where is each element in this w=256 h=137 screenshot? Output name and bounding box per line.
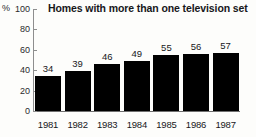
x-axis-label: 1981	[32, 119, 64, 130]
y-axis-tick-label: 20	[4, 87, 30, 96]
x-axis-label: 1983	[91, 119, 123, 130]
x-axis-label: 1984	[121, 119, 153, 130]
y-axis-tick-label: 100	[4, 5, 30, 14]
y-axis-tick	[33, 29, 37, 30]
x-axis-label: 1986	[180, 119, 212, 130]
bar	[65, 71, 91, 111]
bar	[153, 55, 179, 111]
plot-area: 100806040200 34394649555657 198119821983…	[0, 0, 256, 137]
y-axis-tick-label-text: 0	[6, 107, 30, 116]
y-axis-tick	[33, 50, 37, 51]
y-axis-tick-label: 60	[4, 46, 30, 55]
bar	[124, 61, 150, 111]
bar	[35, 76, 61, 111]
x-axis-label: 1985	[150, 119, 182, 130]
y-axis-tick-label-text: 20	[6, 87, 30, 96]
bar	[213, 53, 239, 111]
y-axis-tick-label-text: 40	[6, 66, 30, 75]
x-axis-label: 1987	[210, 119, 242, 130]
y-axis-tick	[33, 9, 37, 10]
bar-chart-figure: Homes with more than one television set …	[0, 0, 256, 137]
x-axis-line	[33, 111, 240, 112]
bar	[94, 64, 120, 111]
bar-value-label: 57	[209, 41, 243, 51]
y-axis-tick-label-text: 80	[6, 25, 30, 34]
y-axis-tick	[33, 111, 37, 112]
x-axis-label: 1982	[62, 119, 94, 130]
y-axis-tick-label-text: 100	[6, 5, 30, 14]
bar	[183, 54, 209, 111]
y-axis-tick-label-text: 60	[6, 46, 30, 55]
y-axis-tick-label: 80	[4, 25, 30, 34]
y-axis-line	[33, 9, 34, 112]
y-axis-tick-label: 0	[4, 107, 30, 116]
y-axis-tick-label: 40	[4, 66, 30, 75]
